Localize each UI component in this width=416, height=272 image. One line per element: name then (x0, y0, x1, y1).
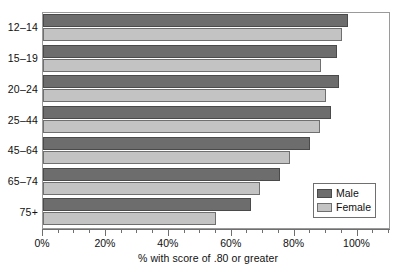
x-tick-major (294, 230, 295, 236)
x-tick-minor (325, 230, 326, 233)
x-tick-major (42, 230, 43, 236)
bar-male-12-14 (43, 14, 348, 27)
x-tick-minor (136, 230, 137, 233)
chart-legend: Male Female (313, 183, 376, 218)
bar-group (43, 106, 389, 137)
bar-female-75+ (43, 212, 216, 225)
bar-male-45-64 (43, 137, 310, 150)
x-tick-major (357, 230, 358, 236)
legend-label-male: Male (336, 188, 359, 199)
bar-female-20-24 (43, 89, 326, 102)
x-tick-minor (184, 230, 185, 233)
x-axis-line (42, 229, 390, 230)
x-tick-minor (372, 230, 373, 233)
x-tick-minor (309, 230, 310, 233)
bar-female-45-64 (43, 151, 290, 164)
x-tick-major (105, 230, 106, 236)
legend-item-female: Female (317, 200, 371, 214)
x-tick-label: 20% (94, 237, 115, 249)
legend-swatch-male-icon (317, 189, 332, 198)
y-axis-label: 20–24 (0, 83, 38, 95)
bar-female-25-44 (43, 120, 320, 133)
bar-female-15-19 (43, 59, 321, 72)
bar-female-12-14 (43, 28, 342, 41)
x-tick-label: 80% (283, 237, 304, 249)
y-axis-label: 25–44 (0, 114, 38, 126)
x-tick-minor (58, 230, 59, 233)
x-tick-minor (73, 230, 74, 233)
x-tick-label: 60% (220, 237, 241, 249)
x-tick-minor (215, 230, 216, 233)
x-tick-major (231, 230, 232, 236)
y-axis-label: 65–74 (0, 175, 38, 187)
x-tick-minor (341, 230, 342, 233)
bar-group (43, 137, 389, 168)
y-axis-label: 15–19 (0, 52, 38, 64)
bar-male-65-74 (43, 168, 280, 181)
x-tick-minor (121, 230, 122, 233)
x-axis-title: % with score of .80 or greater (0, 252, 416, 264)
bar-male-15-19 (43, 45, 337, 58)
x-tick-label: 100% (343, 237, 370, 249)
x-tick-minor (262, 230, 263, 233)
bar-male-25-44 (43, 106, 331, 119)
y-axis-label: 75+ (0, 206, 38, 218)
x-tick-minor (152, 230, 153, 233)
y-axis-label: 12–14 (0, 21, 38, 33)
bar-group (43, 75, 389, 106)
bar-male-20-24 (43, 75, 339, 88)
bar-female-65-74 (43, 182, 260, 195)
legend-swatch-female-icon (317, 203, 332, 212)
x-tick-minor (246, 230, 247, 233)
bar-male-75+ (43, 198, 251, 211)
legend-label-female: Female (336, 202, 371, 213)
x-tick-label: 0% (34, 237, 49, 249)
x-tick-minor (388, 230, 389, 233)
x-tick-minor (89, 230, 90, 233)
bar-chart: 12–1415–1920–2425–4445–6465–7475+ 0%20%4… (0, 0, 416, 272)
y-axis-label: 45–64 (0, 144, 38, 156)
legend-item-male: Male (317, 186, 371, 200)
y-axis-category-labels: 12–1415–1920–2425–4445–6465–7475+ (0, 13, 38, 228)
x-tick-major (168, 230, 169, 236)
x-tick-minor (278, 230, 279, 233)
bar-group (43, 14, 389, 45)
x-tick-label: 40% (157, 237, 178, 249)
bar-group (43, 45, 389, 76)
x-tick-minor (199, 230, 200, 233)
